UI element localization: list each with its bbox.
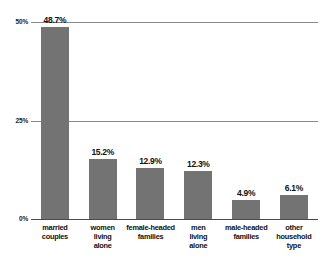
axis-baseline	[31, 219, 318, 220]
ytick-label-25: 25%	[2, 118, 28, 125]
category-label-line: married	[31, 223, 79, 232]
category-label-line: alone	[174, 241, 222, 250]
bar-slot-women-living-alone: 15.2%	[79, 22, 127, 219]
plot-area: 50% 25% 0% 48.7% 15.2% 12.9%	[31, 22, 318, 219]
category-label-line: type	[270, 241, 318, 250]
ytick-label-0: 0%	[2, 216, 28, 223]
category-label-line: men	[174, 223, 222, 232]
bar-value-men-living-alone: 12.3%	[187, 160, 210, 169]
category-label-men-living-alone: menlivingalone	[174, 223, 222, 250]
category-label-line: women	[79, 223, 127, 232]
bar-other-household-type[interactable]	[280, 195, 308, 219]
bar-slot-other-household-type: 6.1%	[270, 22, 318, 219]
bar-value-married-couples: 48.7%	[44, 16, 67, 25]
bar-value-female-headed-families: 12.9%	[139, 157, 162, 166]
category-label-line: families	[217, 232, 275, 241]
category-label-male-headed-families: male-headedfamilies	[217, 223, 275, 241]
category-label-line: families	[122, 232, 180, 241]
bar-slot-female-headed-families: 12.9%	[127, 22, 175, 219]
bar-value-other-household-type: 6.1%	[285, 184, 303, 193]
category-label-women-living-alone: womenlivingalone	[79, 223, 127, 250]
category-label-line: male-headed	[217, 223, 275, 232]
category-label-female-headed-families: female-headedfamilies	[122, 223, 180, 241]
bars-layer: 48.7% 15.2% 12.9% 12.3% 4.9% 6.1%	[31, 22, 318, 219]
bar-chart: 50% 25% 0% 48.7% 15.2% 12.9%	[0, 0, 334, 274]
category-label-other-household-type: otherhouseholdtype	[270, 223, 318, 250]
bar-women-living-alone[interactable]	[89, 159, 117, 219]
bar-male-headed-families[interactable]	[232, 200, 260, 219]
category-label-line: other	[270, 223, 318, 232]
category-axis: marriedcouples womenlivingalone female-h…	[31, 223, 318, 271]
category-label-line: living	[79, 232, 127, 241]
ytick-label-50: 50%	[2, 19, 28, 26]
category-label-line: living	[174, 232, 222, 241]
category-label-line: couples	[31, 232, 79, 241]
category-label-line: household	[270, 232, 318, 241]
category-label-line: female-headed	[122, 223, 180, 232]
bar-men-living-alone[interactable]	[184, 171, 212, 219]
bar-slot-male-headed-families: 4.9%	[222, 22, 270, 219]
bar-value-women-living-alone: 15.2%	[91, 148, 114, 157]
bar-slot-men-living-alone: 12.3%	[174, 22, 222, 219]
bar-slot-married-couples: 48.7%	[31, 22, 79, 219]
bar-value-male-headed-families: 4.9%	[237, 189, 255, 198]
bar-female-headed-families[interactable]	[136, 168, 164, 219]
category-label-line: alone	[79, 241, 127, 250]
bar-married-couples[interactable]	[41, 27, 69, 219]
category-label-married-couples: marriedcouples	[31, 223, 79, 241]
